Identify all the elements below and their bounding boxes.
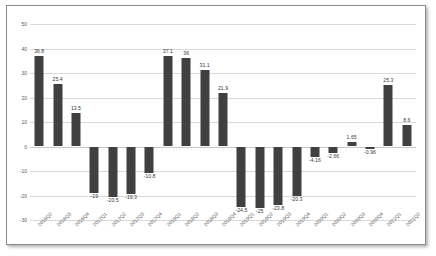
bar-slot: 31.1 [195,24,213,220]
bar[interactable] [71,113,80,146]
bar[interactable] [35,56,44,146]
bar[interactable] [310,147,319,157]
bar-slot: 25.3 [379,24,397,220]
bar-slot: 1.65 [342,24,360,220]
bar-slot: 25.4 [48,24,66,220]
bar-slot: -10.8 [140,24,158,220]
y-axis-tick-label: 40 [21,46,27,51]
bar-slot: -19 [85,24,103,220]
bar[interactable] [218,93,227,147]
bar[interactable] [145,147,154,173]
bar[interactable] [274,147,283,205]
bar-slot: -20.5 [104,24,122,220]
chart-frame: 50403020100-10-20-30 36.825.413.5-19-20.… [6,5,426,245]
y-axis-tick-label: -10 [20,169,27,174]
bar-value-label: -25 [256,209,264,214]
bar-series: 36.825.413.5-19-20.5-19.3-10.837.13631.1… [30,24,416,220]
bar-slot: -24.5 [232,24,250,220]
bar-value-label: -19.3 [125,195,137,200]
bar-value-label: -20.5 [107,198,119,203]
bar[interactable] [255,147,264,208]
y-axis-tick-label: -20 [20,193,27,198]
bar-value-label: -24.5 [235,208,247,213]
y-axis-tick-label: -30 [20,218,27,223]
y-axis-tick-label: 50 [21,22,27,27]
bar-value-label: 37.1 [163,49,173,54]
bar-value-label: 31.1 [200,63,210,68]
y-axis-tick-label: 0 [24,144,27,149]
bar-value-label: -0.96 [364,150,376,155]
bar[interactable] [200,70,209,146]
bar-slot: -0.96 [361,24,379,220]
bar-slot: 37.1 [159,24,177,220]
bar[interactable] [237,147,246,207]
bar-value-label: -10.8 [144,174,156,179]
bar-slot: 36 [177,24,195,220]
bar-value-label: -19 [91,194,99,199]
x-axis-labels: 2016Q22016Q32016Q42017Q12017Q22017Q32017… [30,222,416,256]
bar-slot: -4.16 [306,24,324,220]
y-axis-tick-label: 20 [21,95,27,100]
bar-slot: -2.66 [324,24,342,220]
bar-slot: 8.6 [398,24,416,220]
bar-slot: 21.9 [214,24,232,220]
y-axis-tick-label: 10 [21,120,27,125]
bar-value-label: -4.16 [309,158,321,163]
bar[interactable] [292,147,301,197]
bar-value-label: 36 [183,51,189,56]
bar-value-label: 13.5 [71,106,81,111]
bar-slot: 36.8 [30,24,48,220]
bar-slot: 13.5 [67,24,85,220]
bar[interactable] [384,85,393,147]
bar-slot: -19.3 [122,24,140,220]
bar-slot: -20.3 [287,24,305,220]
bar-value-label: 21.9 [218,86,228,91]
bar-value-label: -23.8 [272,206,284,211]
bar-slot: -23.8 [269,24,287,220]
bar-value-label: -2.66 [327,154,339,159]
bar-value-label: 25.3 [383,78,393,83]
bar[interactable] [163,56,172,147]
bar-value-label: 8.6 [403,118,410,123]
bar[interactable] [127,147,136,194]
bar-value-label: 36.8 [34,49,44,54]
plot-area: 50403020100-10-20-30 36.825.413.5-19-20.… [30,24,416,220]
bar[interactable] [402,125,411,146]
bar-value-label: -20.3 [291,197,303,202]
bar[interactable] [90,147,99,194]
bar-value-label: 25.4 [53,77,63,82]
bar-slot: -25 [251,24,269,220]
bar-value-label: 1.65 [347,135,357,140]
bar[interactable] [53,84,62,146]
bar[interactable] [182,58,191,146]
bar[interactable] [108,147,117,197]
bar[interactable] [347,142,356,146]
y-axis-tick-label: 30 [21,71,27,76]
